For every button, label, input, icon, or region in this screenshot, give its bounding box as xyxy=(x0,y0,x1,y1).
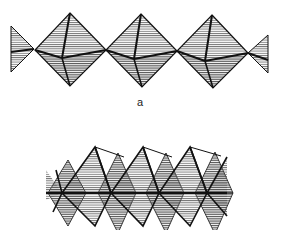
octahedra-diagram xyxy=(0,0,281,230)
panel-b-edge-sharing-chain xyxy=(46,147,233,230)
figure-canvas: a xyxy=(0,0,281,230)
panel-a-label: a xyxy=(137,96,143,108)
panel-a-corner-sharing-chain xyxy=(11,13,268,88)
